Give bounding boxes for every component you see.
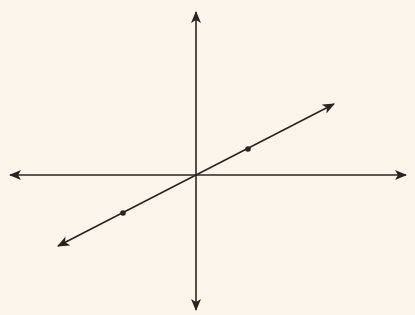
coordinate-diagram: [0, 0, 415, 315]
diagram-svg: [0, 0, 415, 315]
point-upper-right: [245, 146, 251, 152]
point-lower-left: [120, 210, 126, 216]
